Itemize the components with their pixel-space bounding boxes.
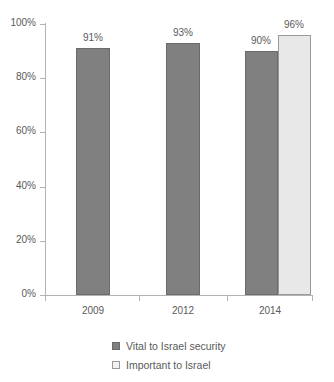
y-axis-tick-60: 60% [0, 132, 46, 133]
y-axis-tick-label: 0% [0, 288, 36, 300]
y-axis-tick-0: 0% [0, 295, 46, 296]
bar-2014-vital [245, 51, 278, 295]
y-tick-mark [40, 187, 46, 188]
legend-swatch-icon [112, 342, 120, 350]
x-axis-tick-mark [312, 296, 313, 301]
x-axis-tick-mark [227, 296, 228, 301]
bar-2014-important [278, 35, 311, 295]
y-axis-tick-20: 20% [0, 241, 46, 242]
bar-2012-vital [166, 43, 200, 295]
y-tick-mark [40, 241, 46, 242]
y-axis-tick-label: 40% [0, 180, 36, 192]
y-axis-tick-label: 20% [0, 234, 36, 246]
legend-item-label: Vital to Israel security [126, 340, 226, 352]
x-axis-tick-mark [45, 296, 46, 301]
bar-2009-vital [76, 48, 110, 295]
bar-value-label: 93% [161, 27, 205, 39]
x-axis-label-2014: 2014 [240, 305, 300, 317]
legend-item-label: Important to Israel [126, 359, 211, 371]
x-axis-line [45, 295, 313, 296]
legend-swatch-icon [112, 361, 120, 369]
bar-value-label: 91% [71, 32, 115, 44]
y-tick-mark [40, 78, 46, 79]
x-axis-label-2012: 2012 [153, 305, 213, 317]
y-tick-mark [40, 132, 46, 133]
chart-legend: Vital to Israel security Important to Is… [112, 336, 312, 374]
x-axis-tick-mark [139, 296, 140, 301]
bar-value-label: 90% [239, 35, 283, 47]
y-axis-tick-40: 40% [0, 187, 46, 188]
x-axis-label-2009: 2009 [63, 305, 123, 317]
legend-item-important: Important to Israel [112, 355, 312, 374]
y-axis-line [45, 23, 46, 296]
y-axis-tick-100: 100% [0, 24, 46, 25]
y-axis-tick-label: 60% [0, 125, 36, 137]
bar-value-label: 96% [272, 19, 316, 31]
y-axis-tick-label: 80% [0, 71, 36, 83]
bar-chart: 100% 80% 60% 40% 20% 0% 91% 93% 90% 96% … [0, 0, 334, 382]
y-axis-tick-80: 80% [0, 78, 46, 79]
y-tick-mark [40, 24, 46, 25]
legend-item-vital: Vital to Israel security [112, 336, 312, 355]
y-axis-tick-label: 100% [0, 17, 36, 29]
